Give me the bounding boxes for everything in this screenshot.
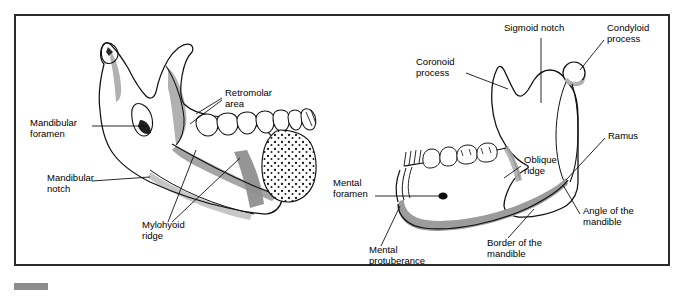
label-coronoid-process: Coronoid process xyxy=(416,57,455,78)
coronoid-shade-left xyxy=(168,68,186,144)
figure-canvas: Retromolar area Mandibular foramen Mandi… xyxy=(0,0,686,296)
teeth-row-left xyxy=(196,109,316,136)
chin-outline-right xyxy=(396,170,400,202)
label-retromolar-area: Retromolar area xyxy=(225,88,272,109)
label-ramus: Ramus xyxy=(608,131,638,142)
right-mandible-group xyxy=(375,38,605,246)
leader-mandibular-notch xyxy=(92,177,150,181)
leader-mental-protub xyxy=(381,206,400,246)
symphysis-line2-right xyxy=(408,167,412,198)
leader-retromolar-1 xyxy=(196,98,222,114)
label-mylohyoid-ridge: Mylohyoid ridge xyxy=(142,220,185,241)
mandible-outline-right xyxy=(492,66,578,217)
label-mental-protuberance: Mental protuberance xyxy=(369,245,425,266)
label-mandibular-foramen: Mandibular foramen xyxy=(30,118,77,139)
leader-condyloid xyxy=(580,40,604,70)
symphysis-line-right xyxy=(402,168,406,200)
label-mandibular-notch: Mandibular notch xyxy=(47,173,94,194)
left-mandible-group xyxy=(92,43,316,222)
cancellous-bone-left xyxy=(262,130,316,202)
leader-coronoid xyxy=(466,73,508,89)
label-sigmoid-notch: Sigmoid notch xyxy=(504,23,564,34)
label-border-of-the-mandible: Border of the mandible xyxy=(487,238,542,259)
label-mental-foramen: Mental foramen xyxy=(333,178,368,199)
leader-ramus xyxy=(566,138,605,180)
label-condyloid-process: Condyloid process xyxy=(607,23,649,44)
mylohyoid-line2-left xyxy=(150,170,254,214)
label-angle-of-the-mandible: Angle of the mandible xyxy=(583,206,634,227)
mandible-illustration xyxy=(0,0,686,296)
label-oblique-ridge: Oblique ridge xyxy=(524,155,557,176)
ramus-anterior-line-right xyxy=(556,82,566,186)
